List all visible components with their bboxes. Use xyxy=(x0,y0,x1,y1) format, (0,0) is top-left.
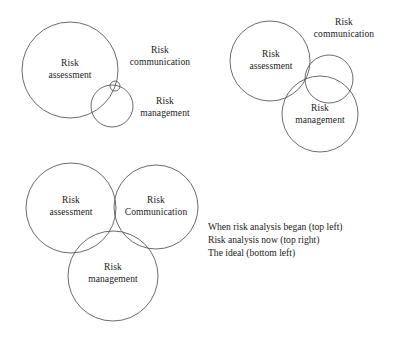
top-right-risk-communication-circle xyxy=(305,55,353,103)
top-left-risk-management-circle xyxy=(91,85,133,127)
panel-top-left xyxy=(22,22,133,127)
top-left-risk-assessment-circle xyxy=(22,22,118,118)
caption-line-top-left: When risk analysis began (top left) xyxy=(208,220,398,233)
bottom-left-risk-communication-circle xyxy=(114,165,198,249)
figure-caption: When risk analysis began (top left) Risk… xyxy=(208,220,398,260)
bottom-left-risk-management-circle xyxy=(68,231,158,321)
venn-diagram-canvas xyxy=(0,0,406,339)
caption-line-bottom-left: The ideal (bottom left) xyxy=(208,246,398,259)
risk-analysis-figure: Risk assessment Risk communication Risk … xyxy=(0,0,406,339)
panel-top-right xyxy=(230,21,358,152)
panel-bottom-left xyxy=(26,163,198,321)
caption-line-top-right: Risk analysis now (top right) xyxy=(208,233,398,246)
bottom-left-risk-assessment-circle xyxy=(26,163,116,253)
top-right-risk-assessment-circle xyxy=(230,21,310,101)
top-right-risk-management-circle xyxy=(282,76,358,152)
